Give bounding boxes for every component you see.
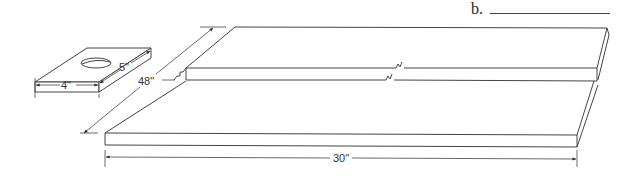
board-length-label: 48" xyxy=(138,75,154,87)
block-width-label: 4" xyxy=(61,79,71,91)
board-width-label: 30" xyxy=(333,152,349,164)
board-drawing xyxy=(105,27,609,147)
technical-drawing: 4" 5" 48" xyxy=(0,0,641,176)
block-depth-label: 5" xyxy=(119,61,129,73)
